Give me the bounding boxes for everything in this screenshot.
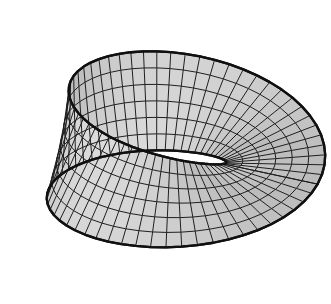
- mesh-face: [143, 51, 156, 68]
- mesh-face: [157, 117, 167, 134]
- mesh-face: [167, 203, 180, 218]
- mesh-face: [168, 188, 179, 203]
- mesh-face: [147, 134, 157, 151]
- mesh-face: [167, 218, 181, 233]
- mesh-face: [157, 84, 169, 101]
- mesh-face: [133, 84, 145, 101]
- mesh-face: [136, 118, 147, 135]
- mobius-figure-container: Mobius strip Shaded quadrilateral wirefr…: [0, 0, 331, 304]
- mesh-face: [146, 117, 156, 134]
- mesh-face: [132, 68, 145, 85]
- mesh-face: [170, 52, 185, 70]
- mesh-face: [131, 51, 144, 68]
- mesh-face: [146, 101, 157, 118]
- mesh-face: [166, 232, 182, 247]
- mesh-face: [169, 173, 179, 189]
- mesh-face: [135, 101, 147, 118]
- mobius-strip-illustration: Mobius strip Shaded quadrilateral wirefr…: [0, 0, 331, 304]
- mesh-face: [151, 232, 167, 247]
- mesh-face: [119, 52, 132, 70]
- mesh-face: [157, 134, 166, 151]
- mesh-face: [145, 84, 157, 101]
- mesh-face: [157, 68, 170, 85]
- mesh-face: [157, 51, 171, 68]
- mesh-face: [157, 101, 168, 118]
- mesh-face: [144, 68, 157, 85]
